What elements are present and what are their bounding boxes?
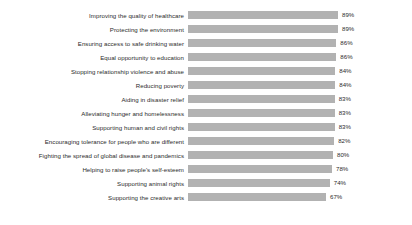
bar-chart: Improving the quality of healthcare89%Pr…: [0, 0, 412, 225]
bar: [188, 39, 336, 47]
bar: [188, 137, 334, 145]
bar-row: Ensuring access to safe drinking water86…: [0, 36, 412, 50]
bar-value-label: 83%: [335, 123, 351, 131]
bar-track: 84%: [188, 64, 412, 78]
bar-row: Fighting the spread of global disease an…: [0, 148, 412, 162]
bar: [188, 123, 335, 131]
bar: [188, 193, 326, 201]
bar: [188, 165, 332, 173]
bar-row-label: Supporting animal rights: [0, 180, 188, 187]
bar-row: Protecting the environment89%: [0, 22, 412, 36]
bar-rows: Improving the quality of healthcare89%Pr…: [0, 8, 412, 204]
bar-track: 84%: [188, 78, 412, 92]
bar-row: Improving the quality of healthcare89%: [0, 8, 412, 22]
bar-value-label: 86%: [336, 53, 352, 61]
bar: [188, 67, 335, 75]
bar-value-label: 82%: [334, 137, 350, 145]
bar: [188, 151, 333, 159]
bar-value-label: 83%: [335, 109, 351, 117]
bar-track: 86%: [188, 36, 412, 50]
bar-track: 67%: [188, 190, 412, 204]
bar-value-label: 67%: [326, 193, 342, 201]
bar: [188, 81, 335, 89]
bar-value-label: 74%: [330, 179, 346, 187]
bar-row-label: Aiding in disaster relief: [0, 96, 188, 103]
bar-track: 78%: [188, 162, 412, 176]
bar-track: 89%: [188, 22, 412, 36]
bar-row: Aiding in disaster relief83%: [0, 92, 412, 106]
bar-row-label: Encouraging tolerance for people who are…: [0, 138, 188, 145]
bar-row-label: Fighting the spread of global disease an…: [0, 152, 188, 159]
bar: [188, 95, 335, 103]
bar-row-label: Ensuring access to safe drinking water: [0, 40, 188, 47]
bar-track: 82%: [188, 134, 412, 148]
bar-row: Supporting animal rights74%: [0, 176, 412, 190]
bar-row: Reducing poverty84%: [0, 78, 412, 92]
bar-value-label: 83%: [335, 95, 351, 103]
bar: [188, 53, 336, 61]
bar-row: Supporting human and civil rights83%: [0, 120, 412, 134]
bar-row-label: Helping to raise people's self-esteem: [0, 166, 188, 173]
bar-row-label: Stopping relationship violence and abuse: [0, 68, 188, 75]
bar-value-label: 89%: [338, 11, 354, 19]
bar-track: 83%: [188, 120, 412, 134]
bar-track: 83%: [188, 92, 412, 106]
bar-value-label: 80%: [333, 151, 349, 159]
bar-track: 86%: [188, 50, 412, 64]
bar-row: Helping to raise people's self-esteem78%: [0, 162, 412, 176]
bar-value-label: 84%: [335, 81, 351, 89]
bar-row: Supporting the creative arts67%: [0, 190, 412, 204]
bar-track: 89%: [188, 8, 412, 22]
bar-track: 80%: [188, 148, 412, 162]
bar-value-label: 84%: [335, 67, 351, 75]
bar-row-label: Reducing poverty: [0, 82, 188, 89]
bar-row-label: Protecting the environment: [0, 26, 188, 33]
bar-row: Alleviating hunger and homelessness83%: [0, 106, 412, 120]
bar: [188, 109, 335, 117]
bar-value-label: 89%: [338, 25, 354, 33]
bar-track: 83%: [188, 106, 412, 120]
bar: [188, 25, 338, 33]
bar: [188, 11, 338, 19]
bar-value-label: 86%: [336, 39, 352, 47]
bar: [188, 179, 330, 187]
bar-row: Equal opportunity to education86%: [0, 50, 412, 64]
bar-row-label: Supporting human and civil rights: [0, 124, 188, 131]
bar-row-label: Alleviating hunger and homelessness: [0, 110, 188, 117]
bar-row-label: Equal opportunity to education: [0, 54, 188, 61]
bar-row: Encouraging tolerance for people who are…: [0, 134, 412, 148]
bar-row: Stopping relationship violence and abuse…: [0, 64, 412, 78]
bar-row-label: Supporting the creative arts: [0, 194, 188, 201]
bar-row-label: Improving the quality of healthcare: [0, 12, 188, 19]
bar-track: 74%: [188, 176, 412, 190]
bar-value-label: 78%: [332, 165, 348, 173]
